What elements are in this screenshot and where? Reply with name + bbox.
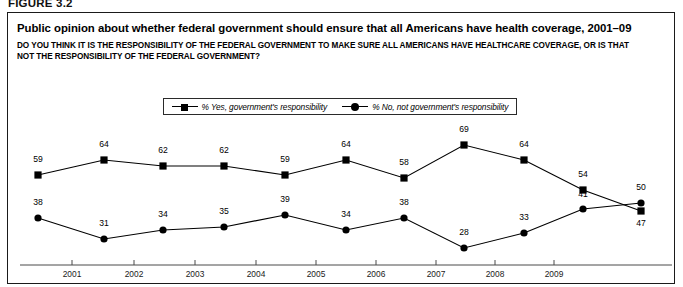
circle-marker-icon bbox=[342, 102, 368, 111]
legend-item-yes[interactable]: % Yes, government's responsibility bbox=[172, 102, 328, 112]
legend-label-yes: % Yes, government's responsibility bbox=[202, 102, 328, 112]
legend-item-no[interactable]: % No, not government's responsibility bbox=[342, 102, 508, 112]
chart-title: Public opinion about whether federal gov… bbox=[17, 22, 657, 35]
square-marker-icon bbox=[172, 102, 198, 111]
legend-label-no: % No, not government's responsibility bbox=[372, 102, 508, 112]
chart-legend: % Yes, government's responsibility % No,… bbox=[163, 98, 517, 115]
figure-number: FIGURE 3.2 bbox=[8, 0, 73, 9]
chart-subtitle: DO YOU THINK IT IS THE RESPONSIBILITY OF… bbox=[17, 40, 642, 62]
figure-root: FIGURE 3.2 Public opinion about whether … bbox=[0, 0, 683, 287]
